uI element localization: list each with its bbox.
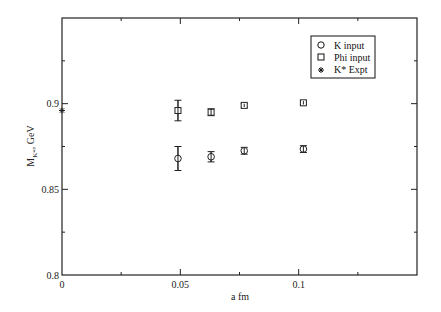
x-tick-label: 0 bbox=[60, 279, 65, 290]
legend-label: K input bbox=[334, 40, 365, 51]
x-tick-label: 0.05 bbox=[172, 279, 190, 290]
legend: K input Phi input K* Expt bbox=[311, 36, 375, 78]
data-point-square bbox=[241, 102, 248, 108]
x-tick-label: 0.1 bbox=[292, 279, 305, 290]
x-axis-label: a fm bbox=[231, 291, 249, 302]
y-tick-label: 0.8 bbox=[47, 270, 60, 281]
data-points bbox=[59, 100, 307, 171]
y-axis-label: MK*, GeV bbox=[25, 125, 39, 167]
y-axis-label-main: M bbox=[25, 158, 36, 167]
y-tick-label: 0.9 bbox=[47, 98, 60, 109]
svg-text:MK*, GeV: MK*, GeV bbox=[25, 125, 39, 167]
legend-label: K* Expt bbox=[334, 64, 368, 75]
y-tick-label: 0.85 bbox=[42, 184, 60, 195]
y-axis-label-rest: , GeV bbox=[25, 125, 36, 150]
data-point-star bbox=[59, 108, 65, 114]
chart: 00.050.10.80.850.9 a fm MK*, GeV K input… bbox=[0, 0, 441, 312]
data-point-circle bbox=[174, 147, 181, 171]
data-point-circle bbox=[300, 146, 307, 153]
data-point-square bbox=[300, 100, 307, 106]
data-point-circle bbox=[241, 147, 248, 154]
legend-label: Phi input bbox=[334, 52, 371, 63]
data-point-square bbox=[208, 109, 215, 116]
data-point-circle bbox=[208, 152, 215, 162]
axis-tick-labels: 00.050.10.80.850.9 bbox=[42, 98, 305, 290]
data-point-square bbox=[174, 100, 181, 121]
